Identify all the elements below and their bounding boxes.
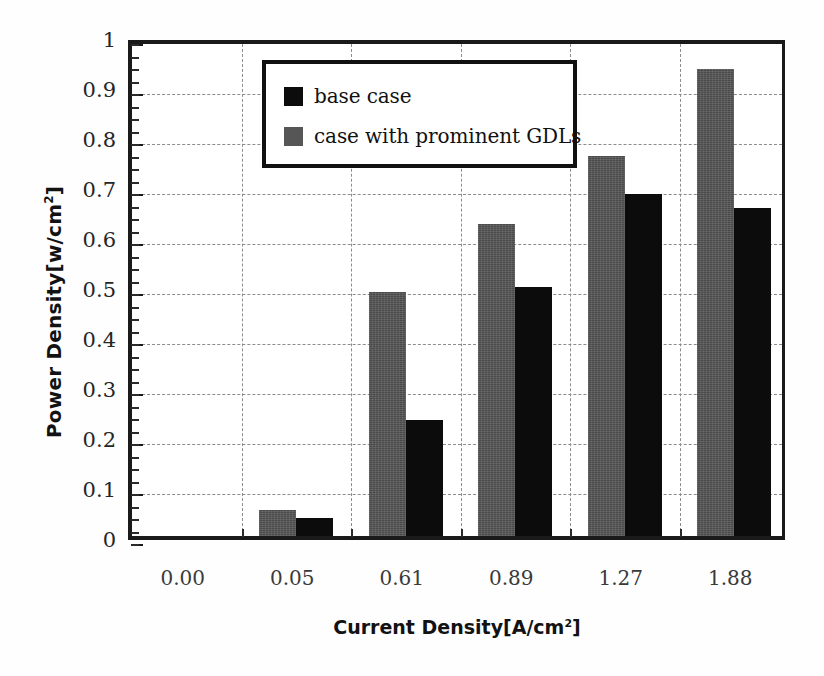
gridline-vertical: [242, 44, 243, 536]
y-axis-minor-tick: [131, 419, 139, 421]
y-axis-minor-tick: [131, 532, 139, 534]
bar-black-0.89: [515, 287, 552, 536]
bar-gray-0.05: [259, 510, 296, 536]
y-axis-minor-tick: [131, 294, 139, 296]
y-axis-minor-tick: [131, 394, 139, 396]
gridline-horizontal: [132, 494, 782, 495]
x-axis-tick: [461, 529, 463, 537]
y-axis-tick-label: 1: [30, 28, 116, 52]
y-axis-minor-tick: [131, 369, 139, 371]
y-axis-minor-tick: [131, 382, 139, 384]
y-axis-tick-label: 0.1: [30, 478, 116, 502]
y-axis-minor-tick: [131, 407, 139, 409]
bar-gray-1.88: [697, 69, 734, 537]
y-axis-minor-tick: [131, 432, 139, 434]
legend-swatch-icon: [284, 127, 303, 146]
legend-item: case with prominent GDLs: [284, 116, 573, 156]
legend-item: base case: [284, 76, 573, 116]
y-axis-tick-label: 0: [30, 528, 116, 552]
x-axis-tick: [242, 529, 244, 537]
y-axis-minor-tick: [131, 494, 139, 496]
bar-black-1.27: [625, 194, 662, 537]
y-axis-minor-tick: [131, 144, 139, 146]
bar-black-1.88: [734, 208, 771, 536]
y-axis-minor-tick: [131, 157, 139, 159]
x-axis-tick: [351, 529, 353, 537]
y-axis-minor-tick: [131, 219, 139, 221]
y-axis-minor-tick: [131, 444, 139, 446]
y-axis-minor-tick: [131, 332, 139, 334]
y-axis-tick-labels: 00.10.20.30.40.50.60.70.80.91: [16, 40, 116, 540]
bar-black-0.61: [406, 420, 443, 537]
bar-black-0.05: [296, 518, 333, 536]
y-axis-tick-label: 0.6: [30, 228, 116, 252]
y-axis-minor-tick: [131, 319, 139, 321]
legend-label: case with prominent GDLs: [314, 124, 581, 148]
y-axis-minor-tick: [131, 457, 139, 459]
x-axis-tick-labels: 0.000.050.610.891.271.88: [128, 566, 785, 600]
y-axis-minor-tick: [131, 269, 139, 271]
x-axis-tick: [680, 529, 682, 537]
x-axis-title-bracket: ]: [572, 616, 581, 638]
y-axis-minor-tick: [131, 169, 139, 171]
y-axis-minor-tick: [131, 307, 139, 309]
bar-gray-1.27: [588, 156, 625, 536]
y-axis-tick-label: 0.3: [30, 378, 116, 402]
gridline-horizontal: [132, 294, 782, 295]
y-axis-minor-tick: [131, 132, 139, 134]
y-axis-minor-tick: [131, 357, 139, 359]
gridline-horizontal: [132, 394, 782, 395]
y-axis-minor-tick: [131, 469, 139, 471]
y-axis-minor-tick: [131, 57, 139, 59]
y-axis-minor-tick: [131, 257, 139, 259]
x-axis-tick: [570, 529, 572, 537]
y-axis-minor-tick: [131, 244, 139, 246]
x-axis-title-text: Current Density[A/cm: [333, 616, 564, 638]
gridline-horizontal: [132, 344, 782, 345]
y-axis-tick-label: 0.7: [30, 178, 116, 202]
gridline-horizontal: [132, 444, 782, 445]
x-axis-tick-label: 0.61: [342, 566, 462, 590]
chart-figure: Power Density[w/cm2] 00.10.20.30.40.50.6…: [0, 0, 824, 676]
y-axis-minor-tick: [131, 119, 139, 121]
y-axis-minor-tick: [131, 207, 139, 209]
x-axis-title-superscript: 2: [564, 617, 572, 630]
legend-swatch-icon: [284, 87, 303, 106]
y-axis-minor-tick: [131, 519, 139, 521]
y-axis-tick-label: 0.2: [30, 428, 116, 452]
x-axis-tick-label: 0.05: [232, 566, 352, 590]
x-axis-tick-label: 0.00: [123, 566, 243, 590]
x-axis-tick-label: 1.27: [561, 566, 681, 590]
y-axis-minor-tick: [131, 544, 139, 546]
y-axis-minor-tick: [131, 94, 139, 96]
y-axis-minor-tick: [131, 44, 139, 46]
chart-legend: base casecase with prominent GDLs: [262, 60, 577, 168]
legend-label: base case: [314, 84, 412, 108]
x-axis-title: Current Density[A/cm2]: [128, 616, 786, 638]
y-axis-minor-tick: [131, 182, 139, 184]
y-axis-minor-tick: [131, 69, 139, 71]
y-axis-minor-tick: [131, 82, 139, 84]
y-axis-tick-label: 0.4: [30, 328, 116, 352]
y-axis-minor-tick: [131, 232, 139, 234]
y-axis-minor-tick: [131, 507, 139, 509]
y-axis-minor-tick: [131, 482, 139, 484]
gridline-horizontal: [132, 194, 782, 195]
y-axis-minor-tick: [131, 107, 139, 109]
gridline-vertical: [680, 44, 681, 536]
x-axis-tick-label: 1.88: [670, 566, 790, 590]
bar-gray-0.61: [369, 292, 406, 536]
y-axis-tick-label: 0.5: [30, 278, 116, 302]
y-axis-minor-tick: [131, 194, 139, 196]
bar-gray-0.89: [478, 224, 515, 537]
y-axis-minor-tick: [131, 282, 139, 284]
x-axis-tick-label: 0.89: [451, 566, 571, 590]
y-axis-minor-tick: [131, 344, 139, 346]
y-axis-tick-label: 0.9: [30, 78, 116, 102]
y-axis-tick-label: 0.8: [30, 128, 116, 152]
gridline-horizontal: [132, 244, 782, 245]
